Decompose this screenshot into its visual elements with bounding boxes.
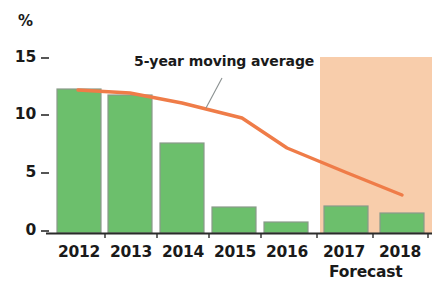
y-tick-label-10: 10 (6, 105, 36, 123)
bar-2016 (264, 222, 308, 233)
y-tick-label-15: 15 (6, 48, 36, 66)
bar-2018 (380, 213, 424, 233)
bar-2013 (108, 95, 152, 233)
y-tick-label-5: 5 (6, 163, 36, 181)
bar-2017 (324, 206, 368, 233)
bar-2015 (212, 207, 256, 233)
x-tick-label-2018: 2018 (368, 243, 432, 261)
bar-2012 (57, 89, 101, 233)
bar-2014 (160, 143, 204, 233)
bar-chart: % 15 10 5 0 2012 2013 2014 2015 2016 201… (0, 0, 432, 286)
forecast-caption: Forecast (329, 263, 402, 281)
moving-average-annotation: 5-year moving average (134, 53, 314, 69)
annotation-leader-line (206, 78, 222, 108)
y-axis-unit-label: % (18, 12, 33, 30)
y-tick-label-0: 0 (6, 221, 36, 239)
x-tick-label-2017: 2017 (312, 243, 376, 261)
x-tick-label-2016: 2016 (255, 243, 319, 261)
y-axis-ticks (41, 58, 49, 231)
